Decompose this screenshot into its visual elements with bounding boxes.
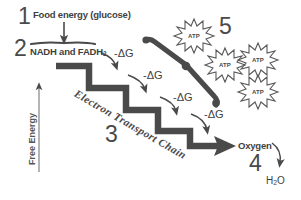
step-number-1: 1 — [18, 5, 31, 28]
oxygen-to-water-arrow — [272, 143, 280, 163]
water-label: H2O — [266, 176, 285, 187]
step-number-4: 4 — [249, 152, 262, 175]
atp-burst-3: ATP — [205, 48, 245, 82]
atp-burst-label: ATP — [252, 89, 264, 95]
atp-burst-4: ATP — [238, 75, 278, 109]
water-o: O — [277, 175, 285, 186]
delta-g-label-3: -ΔG — [173, 92, 193, 103]
delta-g-label-4: -ΔG — [204, 109, 224, 120]
delta-g-label-1: -ΔG — [114, 48, 134, 59]
step-number-3: 3 — [105, 123, 118, 146]
atp-burst-label: ATP — [188, 33, 200, 39]
nadh-fadh-label: NADH and FADH2 — [30, 47, 106, 58]
step-number-2: 2 — [14, 37, 27, 60]
atp-burst-label: ATP — [219, 62, 231, 68]
nadh-fadh-text: NADH and FADH — [30, 46, 103, 57]
atp-burst-2: ATP — [238, 43, 278, 77]
atp-burst-label: ATP — [252, 57, 264, 63]
free-energy-axis-label: Free Energy — [28, 113, 37, 165]
nadh-fadh-bar — [31, 42, 95, 44]
delta-g-label-2: -ΔG — [143, 70, 163, 81]
step-number-5: 5 — [219, 15, 232, 38]
atp-burst-1: ATP — [174, 19, 214, 53]
free-energy-diagram: ATP ATP ATP ATP 1 Food energy (glucose) … — [0, 0, 301, 200]
food-energy-label: Food energy (glucose) — [33, 10, 131, 20]
fadh-subscript: 2 — [103, 50, 106, 57]
